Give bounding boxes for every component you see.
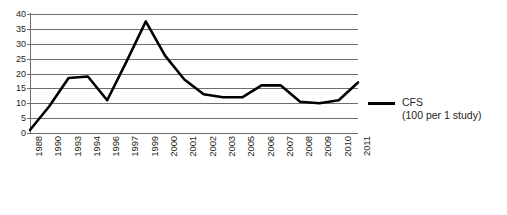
x-tick-label: 2008 <box>304 136 314 157</box>
series-line-path <box>30 21 358 130</box>
plot-area <box>30 14 358 133</box>
x-tick-label: 2010 <box>343 136 353 157</box>
x-tick-label: 2003 <box>227 136 237 157</box>
x-tick-label: 1988 <box>34 136 44 157</box>
x-tick-label: 1999 <box>150 136 160 157</box>
legend-sublabel-cfs: (100 per 1 study) <box>402 109 507 122</box>
y-tick-label: 5 <box>0 114 26 123</box>
x-tick-label: 2011 <box>362 136 372 156</box>
y-tick-label: 35 <box>0 24 26 33</box>
y-tick-label: 25 <box>0 54 26 63</box>
x-tick-label: 2002 <box>208 136 218 157</box>
x-tick-label: 2001 <box>188 136 198 157</box>
x-tick-label: 2006 <box>266 136 276 157</box>
legend-label-cfs: CFS <box>402 96 507 109</box>
chart-title <box>0 0 507 3</box>
line-chart-figure: 4035302520151050 19881990199319941996199… <box>0 0 507 215</box>
x-tick-label: 1990 <box>53 136 63 157</box>
x-axis-tick-labels: 1988199019931994199619971999200020012002… <box>30 136 358 206</box>
gridline <box>30 133 358 134</box>
y-tick-label: 20 <box>0 69 26 78</box>
x-tick-label: 2005 <box>246 136 256 157</box>
x-tick-label: 1994 <box>92 136 102 157</box>
x-tick-label: 1993 <box>73 136 83 157</box>
x-tick-label: 2000 <box>169 136 179 157</box>
legend-swatch-cfs <box>368 102 395 105</box>
y-tick-label: 15 <box>0 84 26 93</box>
x-tick-label: 1996 <box>111 136 121 157</box>
y-tick-label: 10 <box>0 99 26 108</box>
y-tick-label: 30 <box>0 39 26 48</box>
x-tick-label: 2009 <box>323 136 333 157</box>
chart-legend: CFS (100 per 1 study) <box>368 96 507 122</box>
x-tick-label: 1997 <box>130 136 140 157</box>
x-tick-label: 2007 <box>285 136 295 157</box>
data-series-cfs <box>30 14 358 133</box>
y-tick-label: 0 <box>0 129 26 138</box>
y-tick-label: 40 <box>0 10 26 19</box>
legend-text-block: CFS (100 per 1 study) <box>402 96 507 122</box>
y-axis-tick-labels: 4035302520151050 <box>0 0 26 145</box>
y-tick-mark <box>27 133 31 134</box>
